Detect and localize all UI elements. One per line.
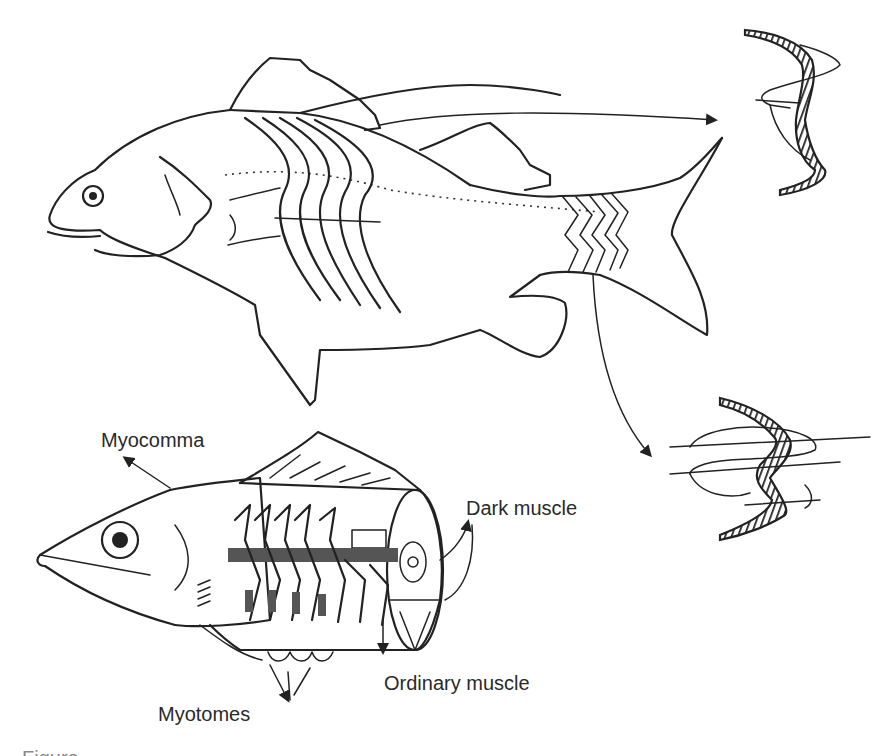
myotomes-arrow xyxy=(270,665,288,700)
label-ordinary-muscle: Ordinary muscle xyxy=(384,672,530,695)
tail-myotomes xyxy=(563,194,628,272)
figure-caption-clipped: Figure xyxy=(22,748,722,756)
arrow-to-cross-section-2 xyxy=(593,275,650,455)
arrow-to-cross-section-1 xyxy=(380,113,715,125)
myotome-cross-section-anterior xyxy=(745,30,840,195)
top-fish-outline xyxy=(48,58,722,405)
label-myotomes: Myotomes xyxy=(158,703,250,726)
myotome-cross-section-posterior xyxy=(670,398,870,540)
label-myocomma: Myocomma xyxy=(101,429,204,452)
body-myotomes xyxy=(245,118,400,312)
dissected-fish xyxy=(38,432,473,661)
myotome-blocks xyxy=(235,505,388,625)
fish-muscle-diagram xyxy=(0,0,895,756)
label-dark-muscle: Dark muscle xyxy=(466,497,577,520)
myocomma-arrow xyxy=(125,458,170,488)
